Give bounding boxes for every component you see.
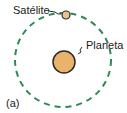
satellite (62, 11, 70, 19)
planet-pointer (78, 47, 82, 54)
panel-label: (a) (6, 98, 19, 109)
planet-label: Planeta (86, 40, 123, 51)
satellite-label: Satélite (13, 5, 50, 16)
orbit-diagram (0, 0, 127, 113)
planet (53, 51, 75, 73)
